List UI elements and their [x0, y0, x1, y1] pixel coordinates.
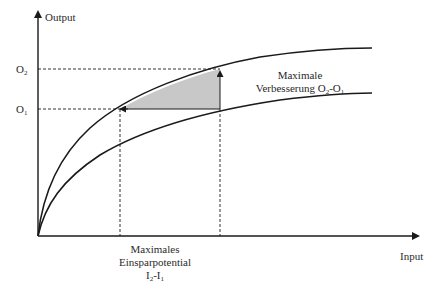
savings-line3: I2-I1 — [100, 269, 210, 282]
lower-production-curve — [38, 93, 372, 236]
savings-line2: Einsparpotential — [100, 256, 210, 269]
improvement-line2: Verbesserung O2-O1 — [230, 82, 370, 95]
improvement-line1: Maximale — [230, 69, 370, 82]
y-axis-label: Output — [45, 11, 76, 24]
o2-base: O — [16, 63, 24, 75]
o1-tick-label: O1 — [16, 103, 27, 116]
savings-line1: Maximales — [100, 243, 210, 256]
shaded-improvement-area — [120, 69, 220, 109]
production-diagram — [0, 0, 441, 294]
o2-tick-label: O2 — [16, 63, 27, 76]
savings-annotation: Maximales Einsparpotential I2-I1 — [100, 243, 210, 282]
o1-base: O — [16, 103, 24, 115]
o2-sub: 2 — [24, 69, 28, 77]
x-axis-label: Input — [400, 250, 423, 263]
improvement-annotation: Maximale Verbesserung O2-O1 — [230, 69, 370, 95]
o1-sub: 1 — [24, 109, 28, 117]
